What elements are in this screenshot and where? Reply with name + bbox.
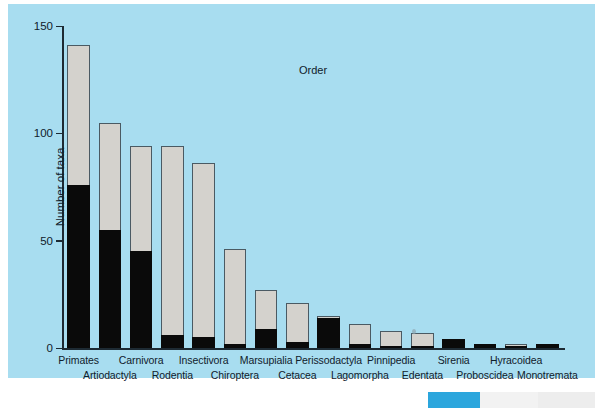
bar-chiroptera (224, 249, 247, 348)
bar-sirenia (442, 339, 465, 348)
x-tick-label-primates: Primates (58, 354, 99, 366)
x-tick-label-carnivora: Carnivora (119, 354, 164, 366)
bar-segment-black (130, 251, 153, 348)
x-tick-label-hyracoidea: Hyracoidea (490, 354, 542, 366)
bar-perissodactyla (317, 316, 340, 348)
bar-segment-grey (224, 249, 247, 348)
y-axis-title: Number of taxa (54, 148, 66, 227)
x-tick-label-chiroptera: Chiroptera (211, 369, 259, 381)
y-tick-150 (56, 26, 63, 28)
y-tick-50 (56, 240, 63, 242)
bar-pinnipedia (380, 331, 403, 348)
bar-segment-black (161, 335, 184, 348)
scan-speck (412, 329, 416, 334)
y-tick-label-100: 100 (34, 127, 53, 139)
bar-segment-black (442, 339, 465, 348)
bar-segment-black (317, 318, 340, 348)
y-tick-label-50: 50 (40, 235, 53, 247)
scan-artifact-strip (428, 392, 595, 408)
x-tick-label-proboscidea: Proboscidea (456, 369, 513, 381)
bar-edentata (411, 333, 434, 348)
bar-lagomorpha (349, 324, 372, 348)
bar-insectivora (192, 163, 215, 348)
x-tick-label-cetacea: Cetacea (278, 369, 316, 381)
bar-segment-black (67, 185, 90, 348)
bar-primates (67, 45, 90, 348)
x-tick-label-edentata: Edentata (402, 369, 443, 381)
plot-area: 050100150 Number of taxa PrimatesArtioda… (63, 26, 563, 348)
y-tick-100 (56, 133, 63, 135)
bar-artiodactyla (99, 123, 122, 348)
x-tick-label-artiodactyla: Artiodactyla (83, 369, 137, 381)
x-axis-title: Order (63, 64, 563, 76)
x-tick-label-marsupialia: Marsupialia (240, 354, 293, 366)
bar-carnivora (130, 146, 153, 348)
bar-rodentia (161, 146, 184, 348)
artifact-swatch-0 (428, 392, 480, 408)
artifact-swatch-2 (538, 392, 595, 408)
bar-segment-black (255, 329, 278, 348)
chart-plate: 050100150 Number of taxa PrimatesArtioda… (8, 4, 595, 378)
x-tick-label-pinnipedia: Pinnipedia (367, 354, 415, 366)
bar-marsupialia (255, 290, 278, 348)
x-tick-label-rodentia: Rodentia (152, 369, 193, 381)
x-tick-label-group: PrimatesArtiodactylaCarnivoraRodentiaIns… (63, 348, 563, 394)
y-tick-0 (56, 348, 63, 350)
bar-segment-black (192, 337, 215, 348)
x-tick-label-sirenia: Sirenia (438, 354, 470, 366)
bar-segment-grey (161, 146, 184, 348)
y-tick-label-0: 0 (47, 342, 53, 354)
x-tick-label-lagomorpha: Lagomorpha (331, 369, 389, 381)
x-tick-label-perissodactyla: Perissodactyla (295, 354, 362, 366)
figure-canvas: 050100150 Number of taxa PrimatesArtioda… (0, 0, 603, 411)
bar-segment-black (99, 230, 122, 348)
x-tick-label-monotremata: Monotremata (517, 369, 578, 381)
y-tick-label-150: 150 (34, 20, 53, 32)
bar-cetacea (286, 303, 309, 348)
bar-segment-grey (192, 163, 215, 348)
artifact-swatch-1 (480, 392, 538, 408)
x-tick-label-insectivora: Insectivora (179, 354, 229, 366)
